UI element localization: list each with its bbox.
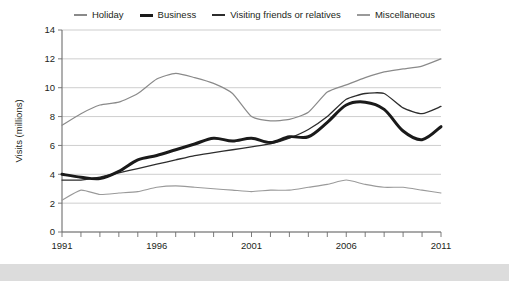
series-line-business <box>62 102 441 179</box>
y-axis-title: Visits (millions) <box>13 99 24 162</box>
legend-swatch-icon <box>212 14 225 15</box>
legend-label: Business <box>158 10 197 20</box>
legend-label: Miscellaneous <box>375 10 435 20</box>
ytick-label-14: 14 <box>44 24 55 35</box>
ytick-label-8: 8 <box>50 111 55 122</box>
ytick-label-10: 10 <box>44 82 55 93</box>
chart-figure: HolidayBusinessVisiting friends or relat… <box>0 0 509 281</box>
legend-item-holiday[interactable]: Holiday <box>74 10 124 20</box>
xtick-label-2006: 2006 <box>336 240 357 251</box>
legend-label: Holiday <box>92 10 124 20</box>
xtick-label-2001: 2001 <box>241 240 262 251</box>
legend-swatch-icon <box>74 14 87 15</box>
legend-swatch-icon <box>140 14 153 17</box>
series-line-holiday <box>62 59 441 125</box>
legend-item-business[interactable]: Business <box>140 10 197 20</box>
xtick-label-1991: 1991 <box>51 240 72 251</box>
series-line-miscellaneous <box>62 180 441 200</box>
legend-label: Visiting friends or relatives <box>230 10 341 20</box>
ytick-label-6: 6 <box>50 140 55 151</box>
xtick-label-1996: 1996 <box>146 240 167 251</box>
plot-area: 0246810121419911996200120062011Visits (m… <box>0 22 509 258</box>
xtick-label-2011: 2011 <box>431 240 451 251</box>
line-chart-svg: 0246810121419911996200120062011Visits (m… <box>0 22 509 258</box>
series-line-visiting-friends-or-relatives <box>62 93 441 180</box>
ytick-label-0: 0 <box>50 226 55 237</box>
ytick-label-2: 2 <box>50 198 55 209</box>
legend-item-miscellaneous[interactable]: Miscellaneous <box>357 10 435 20</box>
ytick-label-4: 4 <box>50 169 55 180</box>
caption-strip <box>0 264 509 281</box>
legend-swatch-icon <box>357 14 370 15</box>
ytick-label-12: 12 <box>44 53 55 64</box>
legend-item-visiting-friends-or-relatives[interactable]: Visiting friends or relatives <box>212 10 341 20</box>
